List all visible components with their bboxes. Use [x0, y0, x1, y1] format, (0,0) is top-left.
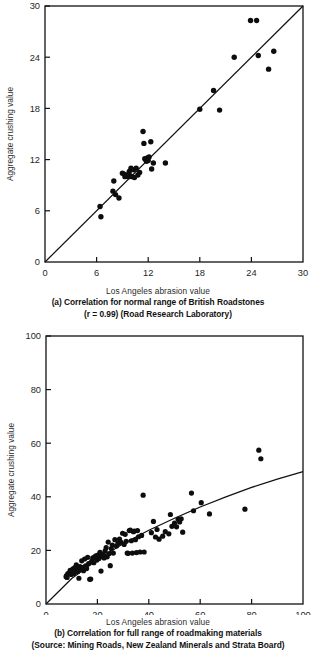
y-tick-label: 100	[25, 331, 41, 341]
caption-line-b-2: (Source: Mining Roads, New Zealand Miner…	[0, 640, 316, 652]
x-tick-label: 0	[43, 610, 48, 615]
data-point	[116, 195, 121, 200]
data-point	[254, 18, 259, 23]
data-point	[256, 53, 261, 58]
data-point	[163, 160, 168, 165]
chart-panel-b: 020406080100020406080100Aggregate crushi…	[0, 330, 316, 661]
y-tick-label: 12	[30, 155, 40, 165]
data-point-group	[97, 18, 276, 220]
data-point	[179, 516, 184, 521]
data-point	[148, 139, 153, 144]
data-point	[135, 528, 140, 533]
x-tick-label: 60	[195, 610, 205, 615]
caption-line-a-1: (a) Correlation for normal range of Brit…	[0, 297, 316, 309]
scatter-plot-b: 020406080100020406080100Aggregate crushi…	[0, 330, 316, 615]
x-axis-title-b: Los Angeles abrasion value	[0, 617, 316, 628]
data-point	[85, 555, 90, 560]
data-point	[180, 530, 185, 535]
y-tick-label: 30	[30, 1, 40, 11]
data-point	[151, 160, 156, 165]
data-point	[146, 154, 151, 159]
data-point	[139, 533, 144, 538]
data-point-group	[63, 448, 263, 582]
data-point	[111, 550, 116, 555]
caption-line-b-1: (b) Correlation for full range of roadma…	[0, 628, 316, 640]
data-point	[207, 511, 212, 516]
chart-panel-a: 06121824300612182430Aggregate crushing v…	[0, 0, 316, 330]
data-point	[242, 507, 247, 512]
data-point	[271, 49, 276, 54]
x-tick-label: 18	[195, 268, 205, 278]
data-point	[168, 512, 173, 517]
data-point	[104, 545, 109, 550]
data-point	[124, 539, 129, 544]
data-point	[166, 531, 171, 536]
data-point	[76, 576, 81, 581]
y-tick-label: 80	[31, 385, 41, 395]
data-point	[141, 493, 146, 498]
x-tick-label: 6	[94, 268, 99, 278]
data-point	[174, 524, 179, 529]
x-tick-label: 0	[42, 268, 47, 278]
x-tick-label: 100	[295, 610, 311, 615]
data-point	[137, 170, 142, 175]
y-tick-label: 60	[31, 439, 41, 449]
data-point	[199, 500, 204, 505]
data-point	[140, 129, 145, 134]
y-tick-label: 0	[35, 257, 40, 267]
trend-line	[46, 472, 303, 604]
data-point	[88, 576, 93, 581]
caption-block-b: Los Angeles abrasion value (b) Correlati…	[0, 617, 316, 661]
data-point	[154, 527, 159, 532]
y-tick-label: 0	[36, 599, 41, 609]
y-tick-label: 24	[30, 53, 40, 63]
x-tick-label: 80	[246, 610, 256, 615]
data-point	[142, 549, 147, 554]
x-tick-label: 20	[92, 610, 102, 615]
caption-block-a: Los Angeles abrasion value (a) Correlati…	[0, 286, 316, 320]
y-tick-label: 40	[31, 492, 41, 502]
data-point	[160, 534, 165, 539]
y-tick-label: 18	[30, 104, 40, 114]
trend-line	[45, 6, 303, 262]
x-tick-label: 30	[298, 268, 308, 278]
data-point	[258, 456, 263, 461]
data-point	[248, 18, 253, 23]
caption-line-a-2: (r = 0.99) (Road Research Laboratory)	[0, 309, 316, 321]
x-axis-title-a: Los Angeles abrasion value	[0, 286, 316, 297]
data-point	[133, 165, 138, 170]
data-point	[141, 141, 146, 146]
data-point	[149, 530, 154, 535]
data-point	[123, 532, 128, 537]
data-point	[191, 508, 196, 513]
y-axis-title: Aggregate crushing value	[5, 87, 15, 181]
y-axis-title: Aggregate crushing value	[6, 423, 16, 517]
x-tick-label: 40	[144, 610, 154, 615]
data-point	[197, 107, 202, 112]
data-point	[97, 204, 102, 209]
data-point	[98, 568, 103, 573]
data-point	[108, 563, 113, 568]
data-point	[211, 88, 216, 93]
data-point	[217, 107, 222, 112]
data-point	[149, 166, 154, 171]
data-point	[111, 178, 116, 183]
x-tick-label: 24	[246, 268, 256, 278]
data-point	[98, 214, 103, 219]
x-tick-label: 12	[143, 268, 153, 278]
figure-page: 06121824300612182430Aggregate crushing v…	[0, 0, 316, 661]
scatter-plot-a: 06121824300612182430Aggregate crushing v…	[0, 0, 316, 290]
data-point	[151, 519, 156, 524]
data-point	[266, 66, 271, 71]
data-point	[84, 566, 89, 571]
y-tick-label: 6	[35, 206, 40, 216]
data-point	[232, 55, 237, 60]
data-point	[256, 448, 261, 453]
y-tick-label: 20	[31, 546, 41, 556]
data-point	[189, 490, 194, 495]
